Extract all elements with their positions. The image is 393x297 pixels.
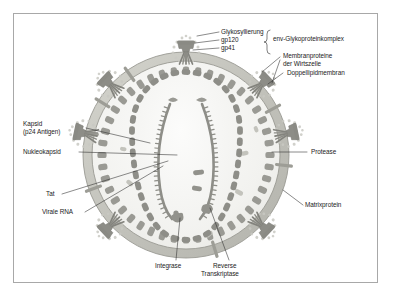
nucleocapsid-tooth <box>157 194 161 195</box>
nucleocapsid-tooth <box>211 139 215 140</box>
nucleocapsid-tooth <box>156 190 160 191</box>
label-matrixprotein: Matrixprotein <box>305 201 341 209</box>
label-reverse-line1: Reverse <box>213 262 236 270</box>
nucleocapsid-tooth <box>158 129 162 130</box>
nucleocapsid-tooth <box>212 185 216 186</box>
label-glykosylierung: Glykosyllierung <box>221 28 264 36</box>
label-kapsid-line1: Kapsid <box>23 120 42 128</box>
label-doppellipidmembran: Doppellipidmembran <box>287 69 345 77</box>
label-integrase: Integrase <box>155 262 181 270</box>
nucleocapsid-tooth <box>156 139 160 140</box>
capsid-block <box>182 237 191 243</box>
label-nukleokapsid: Nukleokapsid <box>23 148 61 156</box>
nucleocapsid-tooth <box>155 185 159 186</box>
nucleocapsid-tooth <box>212 190 216 191</box>
capsid-block <box>130 148 136 157</box>
nucleocapsid-tooth <box>157 134 161 135</box>
capsid-block <box>237 137 243 146</box>
nucleocapsid-tooth <box>210 129 214 130</box>
label-membranproteine-line1: Membranproteine <box>283 52 332 60</box>
nucleocapsid-tooth <box>211 134 215 135</box>
nucleocapsid-tooth <box>211 194 215 195</box>
matrix-protein-block <box>265 152 274 158</box>
label-gp120: gp120 <box>221 36 239 44</box>
label-kapsid-line2: (p24 Antigen) <box>23 128 60 136</box>
capsid-block <box>237 126 243 135</box>
figure-canvas: Glykosyllierung gp120 gp41 env-Glykoprot… <box>0 0 393 297</box>
label-env-glykoproteinkomplex: env-Glykoproteinkomplex <box>273 35 344 43</box>
label-reverse-line2: Transkriptase <box>201 270 239 278</box>
label-virale-rna: Virale RNA <box>42 208 73 216</box>
env-complex-bracket <box>264 30 270 54</box>
capsid-block <box>129 126 135 135</box>
capsid-block <box>236 148 243 157</box>
label-gp41: gp41 <box>221 44 235 52</box>
label-tat: Tat <box>46 190 54 198</box>
capsid-block <box>182 69 191 75</box>
label-protease: Protease <box>311 148 336 156</box>
nucleocapsid-tooth <box>156 143 160 144</box>
virion <box>65 35 306 259</box>
nucleocapsid-tooth <box>212 143 216 144</box>
label-membranproteine-line2: der Wirtszelle <box>283 60 321 68</box>
